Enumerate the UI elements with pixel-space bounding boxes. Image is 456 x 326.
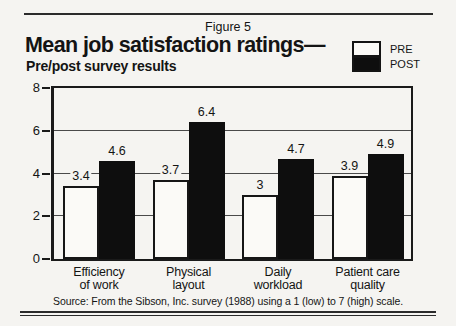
- legend-post-swatch: [352, 56, 381, 72]
- chart-subtitle: Pre/post survey results: [26, 58, 176, 74]
- bar-post-efficiency: [99, 161, 135, 259]
- gridline-y6: [54, 130, 411, 131]
- figure-label: Figure 5: [0, 20, 456, 34]
- legend-pre-label: PRE: [390, 43, 413, 55]
- bar-pre-daily: [242, 195, 278, 259]
- bar-value-label: 6.4: [196, 106, 217, 119]
- bar-value-label: 3.9: [339, 160, 360, 173]
- bottom-rule-bottom: [20, 315, 436, 316]
- x-category-line2: quality: [308, 279, 428, 292]
- top-rule: [24, 13, 433, 15]
- legend-item-post: POST: [352, 56, 420, 72]
- figure-page: { "figure_label": "Figure 5", "title": "…: [0, 0, 456, 326]
- y-tick-mark-0: [42, 258, 50, 260]
- y-tick-mark-8: [42, 87, 50, 89]
- bar-post-patient-care: [368, 154, 404, 259]
- y-tick-mark-6: [42, 130, 50, 132]
- y-tick-mark-2: [42, 215, 50, 217]
- bar-value-label: 4.7: [285, 143, 306, 156]
- legend-item-pre: PRE: [352, 41, 413, 57]
- y-tick-label-0: 0: [20, 252, 40, 266]
- bar-value-label: 3.4: [70, 170, 91, 183]
- chart-plot-area: 3.44.63.76.434.73.94.9: [51, 86, 413, 261]
- y-tick-label-2: 2: [20, 209, 40, 223]
- source-note: Source: From the Sibson, Inc. survey (19…: [0, 295, 456, 307]
- bar-pre-physical: [153, 180, 189, 259]
- legend-pre-swatch: [352, 41, 381, 57]
- bar-value-label: 4.6: [106, 145, 127, 158]
- y-tick-mark-4: [42, 173, 50, 175]
- y-tick-label-8: 8: [20, 81, 40, 95]
- bar-pre-efficiency: [63, 186, 99, 259]
- bar-post-physical: [189, 122, 225, 259]
- bottom-rule-top: [20, 311, 436, 313]
- legend-post-label: POST: [390, 58, 420, 70]
- bar-pre-patient-care: [332, 176, 368, 259]
- chart-title: Mean job satisfaction ratings—: [25, 33, 325, 58]
- y-tick-label-4: 4: [20, 167, 40, 181]
- bar-post-daily: [278, 159, 314, 259]
- bar-value-label: 4.9: [375, 138, 396, 151]
- bar-value-label: 3: [255, 179, 266, 192]
- y-tick-label-6: 6: [20, 124, 40, 138]
- x-category-label-patient-care: Patient carequality: [308, 266, 428, 292]
- bar-value-label: 3.7: [160, 164, 181, 177]
